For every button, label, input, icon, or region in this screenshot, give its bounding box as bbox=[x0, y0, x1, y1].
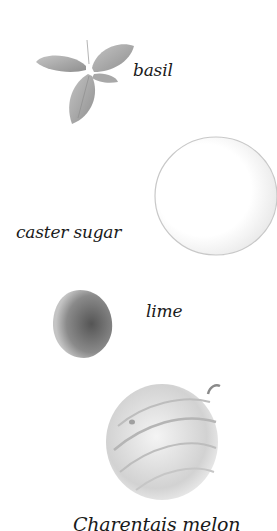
basil-label: basil bbox=[133, 60, 173, 80]
lime-illustration bbox=[50, 288, 116, 360]
caster-sugar-illustration bbox=[152, 135, 277, 257]
lime-label: lime bbox=[146, 301, 182, 321]
caster-sugar-label: caster sugar bbox=[16, 222, 121, 242]
charentais-melon-illustration bbox=[104, 374, 224, 504]
charentais-melon-label: Charentais melon bbox=[73, 513, 240, 531]
basil-illustration bbox=[34, 32, 144, 132]
